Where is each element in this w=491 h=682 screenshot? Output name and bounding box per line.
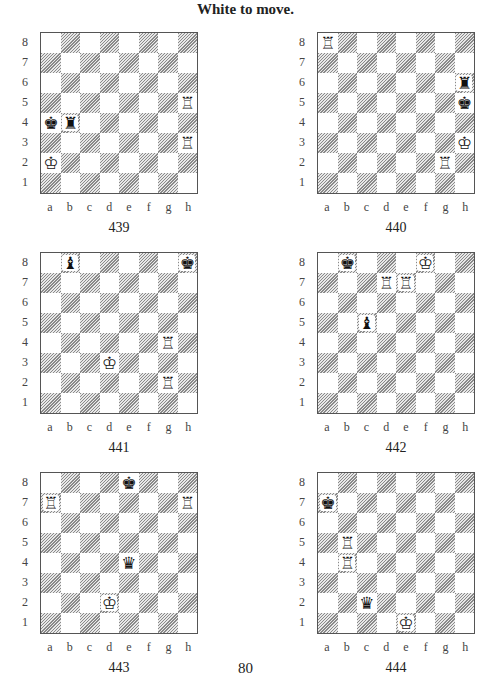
square-a4: ♚ xyxy=(41,113,61,133)
square-b3 xyxy=(61,353,81,373)
file-label: c xyxy=(80,420,100,435)
square-c2 xyxy=(80,373,100,393)
square-h7: ♖ xyxy=(178,493,198,513)
square-d1 xyxy=(377,393,397,413)
diagram-number: 442 xyxy=(317,440,475,456)
rank-label: 2 xyxy=(18,152,32,172)
rank-label: 8 xyxy=(18,32,32,52)
square-d7 xyxy=(377,53,397,73)
square-f7 xyxy=(139,273,159,293)
rank-label: 6 xyxy=(295,292,309,312)
white-king-icon: ♔ xyxy=(43,155,58,172)
square-d7 xyxy=(100,53,120,73)
file-label: f xyxy=(139,420,159,435)
square-f6 xyxy=(416,73,436,93)
square-d5 xyxy=(100,93,120,113)
square-e1 xyxy=(119,613,139,633)
file-label: b xyxy=(337,640,357,655)
chess-diagram-443: 87654321♚♖♖♛♔abcdefgh443 xyxy=(40,472,240,682)
square-d3 xyxy=(377,573,397,593)
square-g1 xyxy=(158,393,178,413)
square-e7 xyxy=(396,493,416,513)
rank-labels: 87654321 xyxy=(18,472,32,632)
square-h4 xyxy=(178,333,198,353)
square-d8 xyxy=(100,253,120,273)
white-rook-icon: ♖ xyxy=(43,495,58,512)
rank-label: 6 xyxy=(295,512,309,532)
square-d2 xyxy=(377,593,397,613)
square-g4: ♖ xyxy=(158,333,178,353)
square-c1 xyxy=(80,173,100,193)
square-h7 xyxy=(455,493,475,513)
rank-label: 7 xyxy=(295,52,309,72)
square-g1 xyxy=(435,613,455,633)
square-g3 xyxy=(158,573,178,593)
square-f1 xyxy=(416,393,436,413)
square-g4 xyxy=(435,113,455,133)
square-d4 xyxy=(100,333,120,353)
square-a2 xyxy=(318,373,338,393)
square-e6 xyxy=(396,513,416,533)
rank-labels: 87654321 xyxy=(295,472,309,632)
rank-label: 1 xyxy=(18,392,32,412)
square-f3 xyxy=(139,573,159,593)
square-b8 xyxy=(61,33,81,53)
square-f6 xyxy=(416,293,436,313)
square-g8 xyxy=(435,473,455,493)
square-e6 xyxy=(396,293,416,313)
square-f1 xyxy=(139,173,159,193)
square-a1 xyxy=(41,613,61,633)
square-c5 xyxy=(80,93,100,113)
square-h7 xyxy=(455,273,475,293)
square-f2 xyxy=(416,153,436,173)
square-b2 xyxy=(61,593,81,613)
square-d7: ♖ xyxy=(377,273,397,293)
square-b8: ♝ xyxy=(61,253,81,273)
square-f7 xyxy=(139,53,159,73)
black-bishop-icon: ♝ xyxy=(359,315,374,332)
file-label: e xyxy=(119,200,139,215)
square-h6 xyxy=(178,73,198,93)
square-g3 xyxy=(158,353,178,373)
square-g7 xyxy=(158,53,178,73)
square-f8 xyxy=(416,33,436,53)
chess-board: ♚♔♖♖♝ xyxy=(317,252,475,414)
square-b3 xyxy=(61,133,81,153)
diagram-number: 440 xyxy=(317,220,475,236)
white-rook-icon: ♖ xyxy=(180,495,195,512)
square-b7 xyxy=(61,53,81,73)
rank-label: 7 xyxy=(18,492,32,512)
square-a8 xyxy=(41,33,61,53)
square-f5 xyxy=(139,313,159,333)
square-h6 xyxy=(178,293,198,313)
square-b4: ♖ xyxy=(338,553,358,573)
square-c8 xyxy=(357,253,377,273)
file-label: g xyxy=(436,200,456,215)
square-e4 xyxy=(396,333,416,353)
square-f6 xyxy=(139,513,159,533)
square-h2 xyxy=(178,373,198,393)
square-c2 xyxy=(357,153,377,173)
square-f1 xyxy=(139,393,159,413)
square-e6 xyxy=(396,73,416,93)
square-h6 xyxy=(455,293,475,313)
black-queen-icon: ♛ xyxy=(121,555,136,572)
square-d2: ♔ xyxy=(100,593,120,613)
square-a7 xyxy=(41,53,61,73)
square-f4 xyxy=(416,333,436,353)
square-a3 xyxy=(318,353,338,373)
file-label: f xyxy=(416,200,436,215)
square-c7 xyxy=(80,493,100,513)
square-d1 xyxy=(377,173,397,193)
square-g2 xyxy=(158,153,178,173)
square-b7 xyxy=(338,53,358,73)
square-h1 xyxy=(178,173,198,193)
rank-label: 3 xyxy=(295,572,309,592)
square-f4 xyxy=(139,553,159,573)
square-d8 xyxy=(100,473,120,493)
file-label: f xyxy=(139,200,159,215)
square-d3 xyxy=(377,353,397,373)
square-c3 xyxy=(80,353,100,373)
square-h3 xyxy=(455,573,475,593)
file-label: d xyxy=(376,640,396,655)
